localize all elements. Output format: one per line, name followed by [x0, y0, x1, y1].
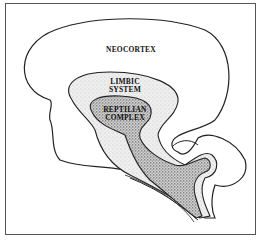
label-reptilian-complex: REPTILIAN COMPLEX [100, 106, 150, 122]
label-limbic-line2: SYSTEM [100, 86, 150, 94]
label-neocortex: NEOCORTEX [96, 46, 166, 54]
label-reptilian-line2: COMPLEX [100, 114, 150, 122]
label-limbic-system: LIMBIC SYSTEM [100, 78, 150, 94]
